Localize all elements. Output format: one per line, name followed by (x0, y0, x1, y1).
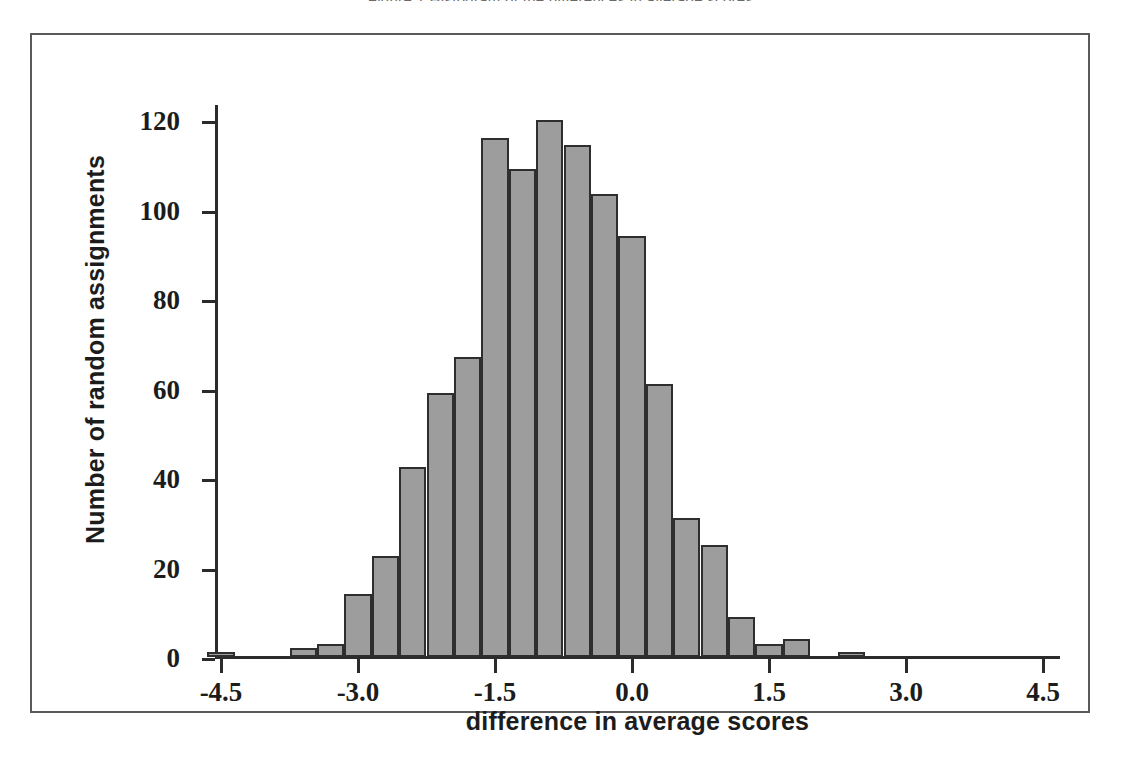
histogram-bar (427, 393, 454, 657)
histogram-bar (673, 518, 700, 657)
histogram-bar (481, 138, 508, 657)
plot-area: 020406080100120 -4.5-3.0-1.50.01.53.04.5 (215, 105, 1060, 659)
y-axis-tick (202, 569, 215, 572)
y-axis-title: Number of random assignments (81, 100, 110, 600)
y-axis-tick (202, 300, 215, 303)
x-axis-tick-label: -3.0 (337, 679, 380, 706)
histogram-bar (290, 648, 317, 657)
x-axis-tick (768, 659, 771, 673)
x-axis-tick-label: 3.0 (889, 679, 923, 706)
histogram-bar (207, 652, 234, 657)
y-axis-tick (202, 390, 215, 393)
x-axis-tick-label: -4.5 (200, 679, 243, 706)
x-axis-tick-label: 1.5 (752, 679, 786, 706)
x-axis-tick (631, 659, 634, 673)
x-axis-tick (905, 659, 908, 673)
y-axis-tick-label: 0 (75, 645, 180, 672)
histogram-bar (536, 120, 563, 657)
histogram-bar (509, 169, 536, 657)
x-axis-tick (357, 659, 360, 673)
y-axis-tick (202, 479, 215, 482)
histogram-bar (838, 652, 865, 657)
x-axis-tick (220, 659, 223, 673)
y-axis-tick (202, 658, 215, 661)
y-axis-line (215, 105, 218, 659)
histogram-bar (783, 639, 810, 657)
histogram-bar (618, 236, 645, 657)
x-axis-tick-label: 0.0 (615, 679, 649, 706)
histogram-bar (728, 617, 755, 657)
histogram-bar (646, 384, 673, 657)
histogram-bar (399, 467, 426, 657)
x-axis-tick-label: 4.5 (1026, 679, 1060, 706)
histogram-bar (701, 545, 728, 657)
figure-frame: 020406080100120 -4.5-3.0-1.50.01.53.04.5… (30, 33, 1090, 713)
y-axis-tick (202, 121, 215, 124)
x-axis-tick (1042, 659, 1045, 673)
histogram-bar (564, 145, 591, 657)
histogram-bar (591, 194, 618, 657)
histogram-bar (454, 357, 481, 657)
x-axis-tick (494, 659, 497, 673)
figure-caption-fragment: Figure 1 Histogram of the differences in… (0, 0, 1121, 1)
histogram-bar (755, 644, 782, 657)
histogram-bar (344, 594, 371, 657)
histogram-bar (317, 644, 344, 657)
x-axis-title: difference in average scores (215, 707, 1060, 736)
y-axis-tick (202, 211, 215, 214)
histogram-bar (372, 556, 399, 657)
x-axis-tick-label: -1.5 (474, 679, 517, 706)
